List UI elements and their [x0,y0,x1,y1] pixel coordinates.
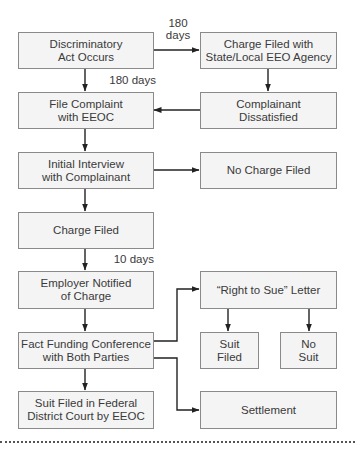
node-fact-funding-conference: Fact Funding Conference with Both Partie… [18,332,154,369]
edge-label-10-days: 10 days [106,253,154,265]
node-right-to-sue-letter: “Right to Sue” Letter [200,271,337,309]
node-employer-notified: Employer Notified of Charge [18,271,154,309]
dotted-divider [0,441,355,443]
node-charge-state-local-agency: Charge Filed with State/Local EEO Agency [200,32,337,69]
node-discriminatory-act: Discriminatory Act Occurs [18,32,154,69]
arrow-fact-to-right-to-sue [154,289,199,341]
node-initial-interview: Initial Interview with Complainant [18,152,154,189]
node-charge-filed: Charge Filed [18,212,154,249]
node-no-suit: No Suit [280,332,337,369]
node-suit-filed: Suit Filed [200,332,259,369]
node-complainant-dissatisfied: Complainant Dissatisfied [200,92,337,129]
edge-label-180-days-state: 180 days [160,17,196,41]
edge-label-180-days-eeoc: 180 days [106,74,156,86]
node-file-complaint: File Complaint with EEOC [18,92,154,129]
arrow-fact-to-settlement [154,358,199,410]
node-suit-filed-federal: Suit Filed in Federal District Court by … [18,391,154,429]
node-settlement: Settlement [200,391,337,429]
node-no-charge-filed: No Charge Filed [200,152,337,189]
